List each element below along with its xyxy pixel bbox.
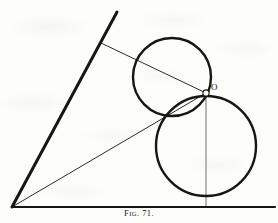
construction-line-tangency-to-o xyxy=(101,43,206,93)
point-o-marker xyxy=(203,90,209,96)
figure-page: O FIG. 71. xyxy=(0,0,278,223)
caption-small-caps: IG xyxy=(129,210,137,217)
angle-upper-ray xyxy=(12,12,117,207)
figure-caption: FIG. 71. xyxy=(0,208,278,218)
geometry-diagram: O xyxy=(0,0,278,223)
point-o-label: O xyxy=(211,82,218,92)
caption-number: . 71. xyxy=(137,208,154,218)
